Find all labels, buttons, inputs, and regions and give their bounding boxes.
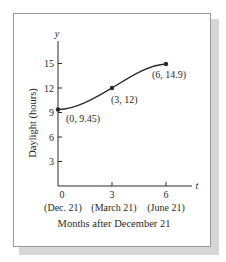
y-tick-label: 3 <box>49 156 54 167</box>
point-annotation: (6, 14.9) <box>152 69 186 81</box>
data-point <box>56 107 60 111</box>
y-tick-label: 6 <box>49 132 54 143</box>
x-tick-labels: 0 3 6 <box>60 189 169 200</box>
point-annotation: (0, 9.45) <box>66 113 100 125</box>
x-ticks <box>112 182 166 186</box>
x-tick-sublabel: (March 21) <box>91 202 136 214</box>
y-axis-symbol: y <box>54 28 60 39</box>
y-tick-labels: 3 6 9 12 15 <box>44 58 54 167</box>
point-annotation: (3, 12) <box>111 94 138 106</box>
x-tick-sublabels: (Dec. 21) (March 21) (June 21) <box>44 202 185 214</box>
x-tick-label: 6 <box>164 189 169 200</box>
chart-svg: y t 3 6 9 12 15 Daylight (hours) 0 3 6 (… <box>0 0 226 262</box>
x-tick-sublabel: (Dec. 21) <box>44 202 82 214</box>
y-tick-label: 12 <box>44 83 54 94</box>
y-axis-label: Daylight (hours) <box>27 88 39 158</box>
y-tick-label: 15 <box>44 58 54 69</box>
data-point <box>164 62 168 66</box>
data-point <box>110 86 114 90</box>
x-tick-label: 3 <box>110 189 115 200</box>
x-tick-label: 0 <box>60 189 65 200</box>
x-tick-sublabel: (June 21) <box>147 202 185 214</box>
y-tick-label: 9 <box>49 107 54 118</box>
x-axis-symbol: t <box>196 180 199 191</box>
x-axis-label: Months after December 21 <box>58 218 171 229</box>
y-ticks <box>58 64 62 162</box>
